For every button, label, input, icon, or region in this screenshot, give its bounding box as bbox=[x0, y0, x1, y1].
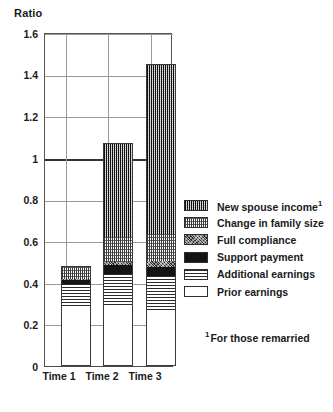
legend-swatch-new-spouse-income bbox=[184, 200, 208, 211]
y-axis-title: Ratio bbox=[14, 7, 43, 19]
legend-label-support-payment: Support payment bbox=[217, 251, 303, 263]
legend-swatch-change-in-family-size bbox=[184, 217, 208, 228]
bar-segment-additional-earnings bbox=[103, 274, 133, 306]
bar-segment-new-spouse-income bbox=[103, 143, 133, 237]
legend: New spouse income1 Change in family size… bbox=[184, 197, 333, 300]
y-tick-label-1.6: 1.6 bbox=[4, 28, 38, 40]
legend-item-change-in-family-size: Change in family size bbox=[184, 214, 333, 231]
y-tick-label-1.2: 1.2 bbox=[4, 111, 38, 123]
bar-segment-additional-earnings bbox=[146, 276, 176, 310]
legend-label-additional-earnings: Additional earnings bbox=[217, 268, 315, 280]
bar-segment-full-compliance bbox=[103, 262, 133, 265]
bar-time-2 bbox=[103, 143, 133, 366]
bar-segment-support-payment bbox=[146, 267, 176, 275]
gridline-1.6 bbox=[45, 34, 173, 35]
y-tick-label-0.8: 0.8 bbox=[4, 194, 38, 206]
x-axis-line bbox=[44, 366, 173, 367]
legend-swatch-full-compliance bbox=[184, 234, 208, 245]
bar-segment-additional-earnings bbox=[61, 284, 91, 307]
bar-time-3 bbox=[146, 64, 176, 366]
legend-item-prior-earnings: Prior earnings bbox=[184, 283, 333, 300]
footnote-marker: 1 bbox=[205, 330, 209, 339]
legend-swatch-support-payment bbox=[184, 252, 208, 263]
bar-segment-full-compliance bbox=[61, 279, 91, 280]
legend-item-full-compliance: Full compliance bbox=[184, 231, 333, 248]
bar-segment-support-payment bbox=[103, 265, 133, 274]
legend-superscript-marker: 1 bbox=[318, 199, 322, 208]
bar-segment-prior-earnings bbox=[146, 310, 176, 366]
legend-label-new-spouse-income: New spouse income1 bbox=[217, 199, 322, 213]
bar-segment-full-compliance bbox=[146, 261, 176, 267]
plot-area bbox=[44, 33, 172, 366]
y-tick-label-0.6: 0.6 bbox=[4, 236, 38, 248]
bar-segment-support-payment bbox=[61, 280, 91, 284]
y-tick-label-1.4: 1.4 bbox=[4, 69, 38, 81]
legend-label-full-compliance: Full compliance bbox=[217, 234, 296, 246]
bar-time-1 bbox=[61, 266, 91, 366]
chart-canvas: Ratio 1.6 1.4 1.2 1 0.8 0.6 0.4 0.2 0 bbox=[0, 0, 333, 412]
legend-item-support-payment: Support payment bbox=[184, 249, 333, 266]
footnote-text: For those remarried bbox=[210, 332, 309, 344]
legend-label-change-in-family-size: Change in family size bbox=[217, 217, 324, 229]
y-tick-label-0.2: 0.2 bbox=[4, 319, 38, 331]
legend-item-new-spouse-income: New spouse income1 bbox=[184, 197, 333, 214]
footnote: 1For those remarried bbox=[205, 330, 310, 344]
y-tick-label-0.4: 0.4 bbox=[4, 278, 38, 290]
legend-swatch-additional-earnings bbox=[184, 269, 208, 280]
x-tick-label-time-3: Time 3 bbox=[118, 370, 172, 382]
legend-item-additional-earnings: Additional earnings bbox=[184, 266, 333, 283]
bar-segment-prior-earnings bbox=[103, 307, 133, 366]
bar-segment-change-in-family-size bbox=[103, 237, 133, 262]
bar-segment-change-in-family-size bbox=[61, 266, 91, 278]
legend-swatch-prior-earnings bbox=[184, 286, 208, 297]
legend-label-prior-earnings: Prior earnings bbox=[217, 286, 288, 298]
bar-segment-prior-earnings bbox=[61, 307, 91, 366]
bar-segment-change-in-family-size bbox=[146, 234, 176, 261]
bar-segment-new-spouse-income bbox=[146, 64, 176, 234]
y-tick-label-1: 1 bbox=[4, 153, 38, 165]
